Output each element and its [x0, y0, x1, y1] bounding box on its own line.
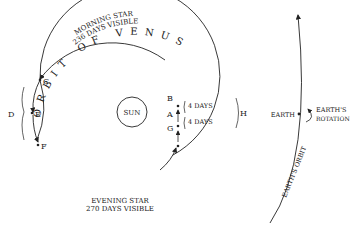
orbit-arrow-bottom [160, 148, 176, 170]
brace-d [22, 87, 24, 140]
earth-orbit-label: EARTH'S ORBIT [280, 145, 308, 199]
label-g: G [167, 124, 173, 133]
evening-star-days: 270 DAYS VISIBLE [86, 205, 154, 213]
point-e [31, 112, 34, 115]
arrow-e-to-f [33, 115, 38, 142]
venus-orbit-diagram: SUN ORBIT OF VENUS MORNING STAR 236 DAYS… [0, 0, 362, 229]
point-f [37, 144, 40, 147]
rotation-arrow [306, 109, 312, 122]
venus-orbit-label: ORBIT OF VENUS [31, 26, 191, 119]
earth-point [298, 113, 301, 116]
label-f: F [41, 142, 47, 151]
interval-top: 4 DAYS [188, 102, 213, 110]
sun-label: SUN [124, 109, 141, 117]
point-c [39, 79, 42, 82]
point-g [177, 145, 180, 148]
point-a [177, 125, 180, 128]
earth-label: EARTH [271, 111, 296, 119]
brace-bottom [184, 117, 185, 129]
point-b [177, 105, 180, 108]
label-d: D [8, 110, 14, 119]
label-h: H [240, 109, 247, 118]
label-a: A [166, 110, 173, 119]
label-e: E [35, 110, 41, 119]
evening-star-label: EVENING STAR [91, 197, 149, 205]
brace-h [236, 98, 239, 128]
venus-orbit [37, 0, 220, 155]
label-c: C [43, 77, 49, 86]
earth-rotation-line2: ROTATION [316, 115, 350, 122]
earth-rotation-line1: EARTH'S [316, 106, 346, 114]
interval-bottom: 4 DAYS [188, 118, 213, 126]
brace-top [184, 101, 185, 113]
label-b: B [167, 94, 173, 103]
